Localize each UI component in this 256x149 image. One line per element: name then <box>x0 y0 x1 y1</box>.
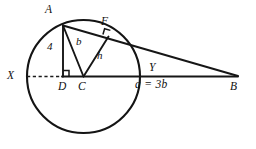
point-label-A: A <box>45 4 52 16</box>
point-label-B: B <box>230 81 237 93</box>
point-label-C: C <box>78 81 86 93</box>
point-label-Y: Y <box>149 62 155 74</box>
length-label-AC-radius-b: b <box>76 36 82 47</box>
geometry-diagram-canvas: A F X D C Y B 4 b h a = 3b <box>0 0 256 149</box>
point-label-F: F <box>101 16 108 28</box>
point-label-D: D <box>58 81 66 93</box>
length-label-AD: 4 <box>47 41 53 52</box>
length-label-CF-height-h: h <box>97 50 103 61</box>
segment-AC-radius <box>63 26 84 77</box>
geometry-drawing <box>0 0 256 149</box>
point-label-X: X <box>7 70 14 82</box>
right-angle-marker-at-F-group <box>103 29 110 36</box>
segment-CF-perpendicular <box>84 37 109 77</box>
right-angle-marker-at-F <box>103 29 110 36</box>
base-equation-label: a = 3b <box>135 79 168 91</box>
